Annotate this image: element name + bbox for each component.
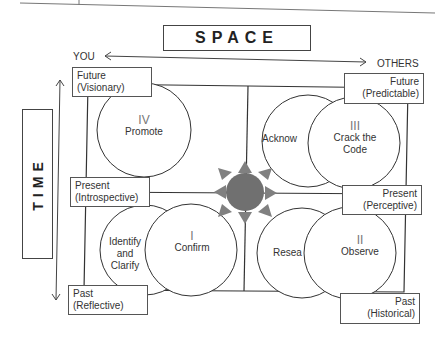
axis-label-others: OTHERS xyxy=(377,58,419,69)
label-line: (Predictable) xyxy=(349,88,419,100)
identify-clarify-label: Identify and Clarify xyxy=(100,236,150,272)
quadrant-iii-text: III Crack the Code xyxy=(322,120,388,156)
center-burst xyxy=(214,161,277,224)
label-line: (Reflective) xyxy=(73,300,143,312)
quadrant-ii-text: II Observe xyxy=(330,234,390,258)
research-label: Resea xyxy=(273,247,313,259)
quadrant-iii-label-line2: Code xyxy=(322,144,388,156)
space-axis-arrow xyxy=(105,52,366,66)
center-circle xyxy=(226,173,264,211)
time-axis-arrow xyxy=(52,80,64,300)
label-past-historical: Past (Historical) xyxy=(340,293,420,324)
acknowledge-label: Acknow xyxy=(262,133,312,145)
space-title: SPACE xyxy=(163,25,311,51)
quadrant-iv-label: Promote xyxy=(125,126,163,137)
quadrant-iii-numeral: III xyxy=(322,120,388,132)
secondary-line: and xyxy=(100,248,150,260)
label-line: Present xyxy=(75,180,145,192)
label-line: Past xyxy=(345,296,415,308)
quadrant-i-label: Confirm xyxy=(174,242,209,253)
label-past-reflective: Past (Reflective) xyxy=(68,285,148,315)
label-line: (Historical) xyxy=(345,308,415,320)
space-title-text: SPACE xyxy=(195,29,279,46)
label-present-perceptive: Present (Perceptive) xyxy=(342,185,422,215)
quadrant-iii-label-line1: Crack the xyxy=(322,132,388,144)
secondary-line: Identify xyxy=(100,236,150,248)
label-present-introspective: Present (Introspective) xyxy=(70,177,150,207)
label-line: Present xyxy=(347,188,417,200)
label-future-predictable: Future (Predictable) xyxy=(344,73,424,104)
label-line: (Visionary) xyxy=(77,82,147,94)
label-line: (Perceptive) xyxy=(347,200,417,212)
quadrant-iv-numeral: IV xyxy=(114,114,174,126)
label-line: Future xyxy=(77,70,147,82)
label-line: Past xyxy=(73,288,143,300)
quadrant-i-numeral: I xyxy=(162,230,222,242)
label-future-visionary: Future (Visionary) xyxy=(72,67,152,97)
time-title: TIME xyxy=(22,109,53,259)
label-line: (Introspective) xyxy=(75,192,145,204)
quadrant-iv-text: IV Promote xyxy=(114,114,174,138)
secondary-line: Clarify xyxy=(100,260,150,272)
top-rule xyxy=(20,3,435,13)
axis-label-you: YOU xyxy=(73,51,95,62)
quadrant-ii-label: Observe xyxy=(341,246,379,257)
label-line: Future xyxy=(349,76,419,88)
quadrant-i-text: I Confirm xyxy=(162,230,222,254)
time-title-text: TIME xyxy=(30,157,46,210)
quadrant-ii-numeral: II xyxy=(330,234,390,246)
